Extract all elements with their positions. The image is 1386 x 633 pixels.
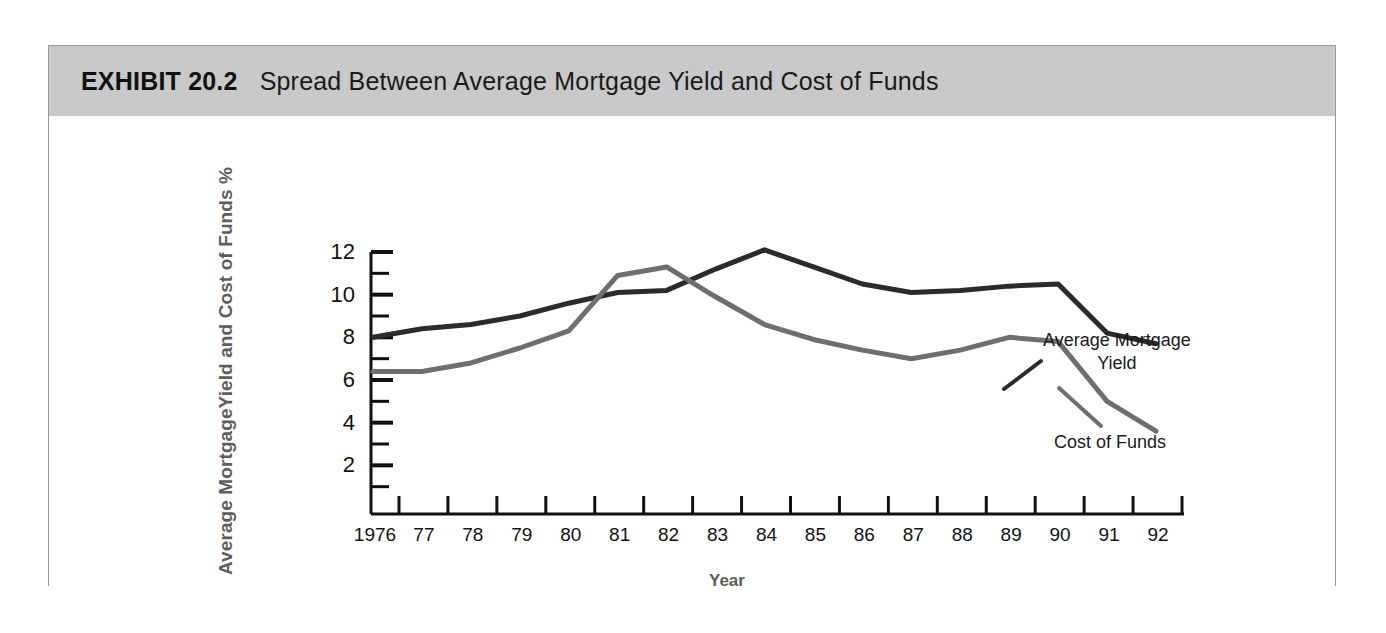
x-tick-label: 79 bbox=[511, 524, 532, 546]
y-tick-label: 10 bbox=[309, 282, 355, 308]
y-tick-label: 12 bbox=[309, 239, 355, 265]
series-label-line2: Yield bbox=[1043, 352, 1191, 375]
x-axis-title: Year bbox=[709, 571, 745, 586]
x-tick-label: 78 bbox=[462, 524, 483, 546]
x-tick-label: 92 bbox=[1147, 524, 1168, 546]
chart-plot-area: Average MortgageYield and Cost of Funds … bbox=[49, 116, 1335, 586]
x-tick-label: 88 bbox=[952, 524, 973, 546]
x-tick-label: 80 bbox=[560, 524, 581, 546]
x-tick-label: 82 bbox=[658, 524, 679, 546]
x-tick-label: 85 bbox=[805, 524, 826, 546]
x-tick-label: 77 bbox=[413, 524, 434, 546]
series-label-line1: Cost of Funds bbox=[1054, 431, 1166, 454]
exhibit-header: EXHIBIT 20.2 Spread Between Average Mort… bbox=[49, 46, 1335, 116]
x-tick-label: 81 bbox=[609, 524, 630, 546]
exhibit-page: EXHIBIT 20.2 Spread Between Average Mort… bbox=[0, 0, 1386, 633]
exhibit-number: EXHIBIT 20.2 bbox=[81, 67, 238, 96]
x-tick-label: 90 bbox=[1050, 524, 1071, 546]
series-label-average-mortgage-yield: Average Mortgage Yield bbox=[1043, 329, 1191, 374]
series-label-line1: Average Mortgage bbox=[1043, 329, 1191, 352]
series-label-cost-of-funds: Cost of Funds bbox=[1054, 431, 1166, 454]
y-tick-label: 4 bbox=[309, 410, 355, 436]
x-tick-label: 84 bbox=[756, 524, 777, 546]
y-tick-label: 2 bbox=[309, 452, 355, 478]
y-tick-label: 6 bbox=[309, 367, 355, 393]
exhibit-frame: EXHIBIT 20.2 Spread Between Average Mort… bbox=[48, 45, 1336, 586]
x-tick-label: 91 bbox=[1098, 524, 1119, 546]
x-tick-label: 86 bbox=[854, 524, 875, 546]
x-tick-label: 87 bbox=[903, 524, 924, 546]
x-tick-label: 1976 bbox=[354, 524, 396, 546]
y-tick-label: 8 bbox=[309, 324, 355, 350]
exhibit-title: Spread Between Average Mortgage Yield an… bbox=[260, 67, 939, 96]
x-tick-label: 89 bbox=[1001, 524, 1022, 546]
x-tick-label: 83 bbox=[707, 524, 728, 546]
